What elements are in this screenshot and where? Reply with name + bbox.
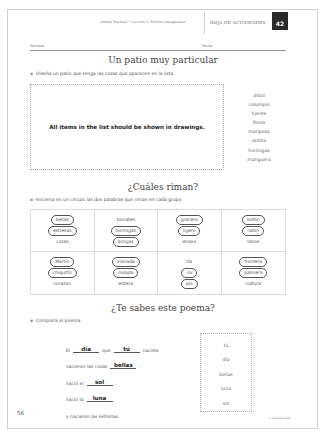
- circled-word[interactable]: frontera: [239, 257, 267, 267]
- drawing-note: All items in the list should be shown in…: [49, 124, 205, 130]
- rhyme-word[interactable]: entera: [114, 279, 138, 289]
- circled-word[interactable]: ratón: [242, 226, 264, 236]
- word-bank: tú día bellas luna sol: [200, 333, 252, 412]
- rhyme-group: botónratónlibros: [222, 210, 286, 252]
- name-label: Nombre: [30, 44, 44, 48]
- section1-instruction: ▪Diseña un patio que tenga las cosas que…: [30, 71, 175, 76]
- rhyme-group: fronterapalmeracultura: [222, 252, 286, 294]
- list-item: manguera: [234, 155, 284, 164]
- word-bank-item: bellas: [201, 368, 251, 382]
- circled-word[interactable]: granero: [176, 215, 203, 225]
- section3-title: ¿Te sabes este poema?: [0, 303, 326, 313]
- rhyme-word[interactable]: cultura: [241, 279, 266, 289]
- word-bank-item: sol: [201, 397, 251, 411]
- circled-word[interactable]: pío: [181, 279, 198, 289]
- circled-word[interactable]: estrellas: [48, 226, 77, 236]
- name-date-line[interactable]: [30, 50, 286, 51]
- bullet-icon: ▪: [30, 71, 33, 76]
- rhyme-group: tomateshormigasamigas: [95, 210, 159, 252]
- poem-line: y nacieron las estrellas.: [66, 402, 159, 419]
- rhyme-group: Martínchiquitíncorazón: [31, 252, 95, 294]
- rhyme-group: graneroligeroenano: [158, 210, 222, 252]
- list-item: ardilla: [234, 136, 284, 145]
- section2-instruction: ▪Encierra en un círculo las dos palabras…: [30, 197, 183, 202]
- list-item: árbol: [234, 91, 284, 100]
- list-item: mariposa: [234, 127, 284, 136]
- sheet-label: HOJA DE ACTIVIDADES: [210, 20, 266, 25]
- page-number: 56: [17, 410, 24, 416]
- section1-title: Un patio muy particular: [0, 55, 326, 65]
- poem-blank[interactable]: tú: [114, 346, 140, 353]
- circled-word[interactable]: Martín: [50, 257, 74, 267]
- circled-word[interactable]: chiquitín: [48, 268, 77, 278]
- circled-word[interactable]: bellas: [51, 215, 74, 225]
- bullet-icon: ▪: [30, 318, 33, 323]
- circled-word[interactable]: botón: [242, 215, 265, 225]
- sheet-number-badge: 42: [272, 12, 288, 30]
- rhyme-group: tíaríopío: [158, 252, 222, 294]
- section2-title: ¿Cuáles riman?: [0, 182, 326, 192]
- circled-word[interactable]: ligero: [178, 226, 200, 236]
- word-bank-item: luna: [201, 382, 251, 396]
- list-item: hormigas: [234, 146, 284, 155]
- rhyme-word[interactable]: enano: [177, 237, 201, 247]
- list-item: columpio: [234, 100, 284, 109]
- rhyme-group: bellasestrellascosas: [31, 210, 95, 252]
- section3-instruction: ▪Completa el poema.: [30, 318, 82, 323]
- date-label: Fecha: [202, 44, 212, 48]
- poem-line: nació el sol ,: [66, 369, 159, 386]
- poem-line: nacieron las cosas bellas .: [66, 353, 159, 370]
- circled-word[interactable]: rosada: [113, 268, 138, 278]
- circled-word[interactable]: amigas: [113, 237, 139, 247]
- list-item: flores: [234, 118, 284, 127]
- rhyme-word[interactable]: libros: [242, 237, 264, 247]
- copyright: © Santillana USA: [268, 417, 291, 420]
- lesson-header: ¡Arriba Pinchan! • Lección 3: Felicitas …: [100, 20, 200, 24]
- rhyme-word[interactable]: cosas: [51, 237, 73, 247]
- poem-blank[interactable]: bellas: [110, 362, 136, 369]
- drawing-area[interactable]: All items in the list should be shown in…: [30, 84, 224, 170]
- rhyme-group: manadarosadaentera: [95, 252, 159, 294]
- circled-word[interactable]: hormigas: [111, 226, 141, 236]
- circled-word[interactable]: río: [181, 268, 197, 278]
- rhyme-word[interactable]: tomates: [112, 215, 140, 225]
- bullet-icon: ▪: [30, 197, 33, 202]
- poem-blank[interactable]: sol: [87, 379, 113, 386]
- list-item: fuente: [234, 109, 284, 118]
- header-divider: [204, 12, 205, 34]
- word-bank-item: día: [201, 353, 251, 367]
- poem-blank[interactable]: luna: [87, 395, 113, 402]
- item-list: árbol columpio fuente flores mariposa ar…: [234, 91, 284, 164]
- poem-line: nació la luna: [66, 386, 159, 403]
- poem-blank[interactable]: día: [73, 346, 99, 353]
- rhyme-word[interactable]: tía: [181, 257, 197, 267]
- circled-word[interactable]: palmera: [239, 268, 267, 278]
- circled-word[interactable]: manada: [112, 257, 140, 267]
- poem-line: El día que tú naciste: [66, 336, 159, 353]
- rhyme-table: bellasestrellascosastomateshormigasamiga…: [30, 209, 286, 295]
- rhyme-word[interactable]: corazón: [49, 279, 76, 289]
- poem: El día que tú naciste nacieron las cosas…: [66, 336, 159, 419]
- word-bank-item: tú: [201, 339, 251, 353]
